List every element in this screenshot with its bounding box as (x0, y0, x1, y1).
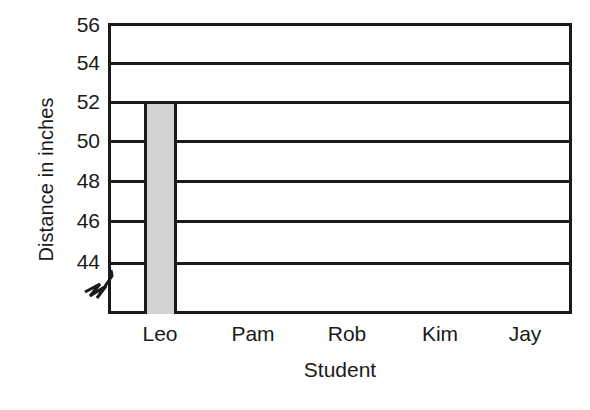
x-tick-label-jay: Jay (475, 322, 575, 346)
y-tick-label: 54 (54, 52, 100, 73)
bar-leo[interactable] (144, 101, 177, 314)
x-tick-label-pam: Pam (203, 322, 303, 346)
y-tick-label: 46 (54, 210, 100, 231)
y-tick-label: 52 (54, 91, 100, 112)
x-tick-label-rob: Rob (297, 322, 397, 346)
bar-chart: Distance in inches 56 54 52 50 48 46 44 … (0, 0, 590, 410)
gridline-46 (111, 220, 569, 223)
gridline-52 (111, 101, 569, 104)
gridline-50 (111, 140, 569, 143)
y-tick-label: 44 (54, 251, 100, 272)
x-axis-title: Student (108, 358, 572, 382)
y-tick-label: 56 (54, 14, 100, 35)
y-axis-tick-labels: 56 54 52 50 48 46 44 (42, 0, 100, 410)
x-tick-label-leo: Leo (110, 322, 210, 346)
y-tick-label: 48 (54, 170, 100, 191)
y-tick-label: 50 (54, 130, 100, 151)
gridline-44 (111, 262, 569, 265)
plot-area (108, 23, 572, 314)
gridline-54 (111, 62, 569, 65)
gridline-48 (111, 180, 569, 183)
x-axis-tick-labels: Leo Pam Rob Kim Jay (108, 322, 572, 350)
